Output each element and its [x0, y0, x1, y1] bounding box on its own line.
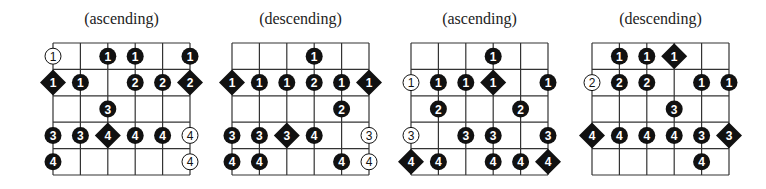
- open-note-marker: 2: [584, 75, 600, 91]
- finger-number: 4: [490, 155, 497, 169]
- finger-number: 4: [616, 129, 623, 143]
- root-diamond-marker: 3: [274, 122, 300, 148]
- finger-number: 4: [187, 129, 194, 143]
- finger-number: 4: [589, 129, 596, 143]
- finger-number: 2: [517, 103, 524, 117]
- finger-number: 4: [229, 155, 236, 169]
- root-diamond-marker: 4: [398, 149, 424, 175]
- filled-note-marker: 1: [638, 48, 655, 65]
- filled-note-marker: 3: [251, 127, 268, 144]
- fingering-diagram-2: (descending)11112112333434444: [202, 0, 392, 189]
- finger-number: 1: [671, 50, 678, 64]
- finger-number: 3: [256, 129, 263, 143]
- open-note-marker: 4: [182, 127, 198, 143]
- filled-note-marker: 1: [306, 48, 323, 65]
- finger-number: 3: [698, 129, 705, 143]
- filled-note-marker: 4: [485, 153, 502, 170]
- finger-number: 4: [671, 129, 678, 143]
- filled-note-marker: 3: [485, 127, 502, 144]
- filled-note-marker: 4: [666, 127, 683, 144]
- filled-note-marker: 3: [693, 127, 710, 144]
- fingering-diagram-3: (ascending)11111122333344444: [381, 0, 571, 189]
- finger-number: 4: [256, 155, 263, 169]
- finger-number: 2: [435, 103, 442, 117]
- open-note-marker: 1: [403, 75, 419, 91]
- root-diamond-marker: 2: [177, 70, 203, 96]
- filled-note-marker: 1: [278, 74, 295, 91]
- finger-number: 1: [256, 76, 263, 90]
- finger-number: 4: [545, 155, 552, 169]
- filled-note-marker: 2: [154, 74, 171, 91]
- finger-number: 2: [187, 76, 194, 90]
- finger-number: 1: [545, 76, 552, 90]
- finger-number: 1: [229, 76, 236, 90]
- finger-number: 3: [366, 129, 373, 143]
- finger-number: 3: [726, 129, 733, 143]
- root-diamond-marker: 1: [480, 70, 506, 96]
- finger-number: 1: [366, 76, 373, 90]
- filled-note-marker: 4: [306, 127, 323, 144]
- filled-note-marker: 2: [306, 74, 323, 91]
- finger-number: 4: [311, 129, 318, 143]
- finger-number: 4: [132, 129, 139, 143]
- open-note-marker: 3: [361, 127, 377, 143]
- finger-number: 3: [671, 103, 678, 117]
- finger-number: 3: [104, 103, 111, 117]
- finger-number: 4: [159, 129, 166, 143]
- filled-note-marker: 4: [638, 127, 655, 144]
- finger-number: 2: [159, 76, 166, 90]
- open-note-marker: 4: [182, 154, 198, 170]
- filled-note-marker: 3: [72, 127, 89, 144]
- filled-note-marker: 1: [182, 48, 199, 65]
- finger-number: 3: [50, 129, 57, 143]
- filled-note-marker: 2: [127, 74, 144, 91]
- filled-note-marker: 1: [721, 74, 738, 91]
- finger-number: 2: [643, 76, 650, 90]
- finger-number: 3: [545, 129, 552, 143]
- filled-note-marker: 3: [99, 101, 116, 118]
- filled-note-marker: 3: [224, 127, 241, 144]
- finger-number: 4: [187, 155, 194, 169]
- filled-note-marker: 4: [611, 127, 628, 144]
- finger-number: 4: [517, 155, 524, 169]
- filled-note-marker: 4: [251, 153, 268, 170]
- fingering-diagram-4: (descending)1112221134444334: [562, 0, 752, 189]
- filled-note-marker: 2: [638, 74, 655, 91]
- finger-number: 1: [490, 76, 497, 90]
- filled-note-marker: 4: [45, 153, 62, 170]
- fingering-diagram-1: (ascending)111111222333444444: [23, 0, 213, 189]
- filled-note-marker: 4: [333, 153, 350, 170]
- finger-number: 4: [104, 129, 111, 143]
- fretboard-grid: 11112112333434444: [202, 0, 402, 189]
- finger-number: 2: [311, 76, 318, 90]
- filled-note-marker: 2: [430, 101, 447, 118]
- filled-note-marker: 1: [540, 74, 557, 91]
- filled-note-marker: 3: [666, 101, 683, 118]
- finger-number: 4: [643, 129, 650, 143]
- finger-number: 1: [698, 76, 705, 90]
- root-diamond-marker: 4: [535, 149, 561, 175]
- finger-number: 1: [104, 50, 111, 64]
- filled-note-marker: 1: [430, 74, 447, 91]
- open-note-marker: 1: [45, 48, 61, 64]
- finger-number: 1: [132, 50, 139, 64]
- filled-note-marker: 4: [512, 153, 529, 170]
- finger-number: 1: [435, 76, 442, 90]
- filled-note-marker: 3: [45, 127, 62, 144]
- finger-number: 1: [490, 50, 497, 64]
- filled-note-marker: 4: [693, 153, 710, 170]
- finger-number: 1: [408, 76, 415, 90]
- finger-number: 3: [490, 129, 497, 143]
- filled-note-marker: 3: [457, 127, 474, 144]
- finger-number: 4: [366, 155, 373, 169]
- finger-number: 1: [616, 50, 623, 64]
- finger-number: 3: [283, 129, 290, 143]
- finger-number: 4: [698, 155, 705, 169]
- finger-number: 3: [408, 129, 415, 143]
- finger-number: 1: [338, 76, 345, 90]
- finger-number: 1: [462, 76, 469, 90]
- root-diamond-marker: 4: [95, 122, 121, 148]
- finger-number: 1: [77, 76, 84, 90]
- root-diamond-marker: 1: [40, 70, 66, 96]
- filled-note-marker: 2: [333, 101, 350, 118]
